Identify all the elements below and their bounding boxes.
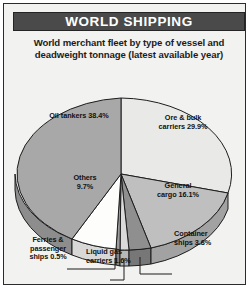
slice-label-oil-tankers: Oil tankers 38.4%	[31, 112, 127, 121]
chart-subtitle: World merchant fleet by type of vessel a…	[18, 37, 240, 60]
slice-label-liquid-gas-carriers: Liquid gas carriers 1.6%	[86, 248, 148, 265]
slice-label-container-ships: Container ships 3.8%	[174, 230, 234, 247]
header-bar: WORLD SHIPPING	[13, 12, 245, 31]
slice-label-ore-bulk-carriers: Ore & bulk carriers 29.9%	[143, 114, 223, 131]
pie-chart: Oil tankers 38.4% Ore & bulk carriers 29…	[10, 62, 246, 287]
slice-label-ferries-passenger-ships: Ferries & passenger ships 0.5%	[23, 236, 73, 262]
page-title: WORLD SHIPPING	[14, 13, 244, 30]
infographic-panel: WORLD SHIPPING World merchant fleet by t…	[3, 3, 246, 285]
slice-label-others: Others 9.7%	[59, 174, 111, 191]
slice-label-general-cargo: General cargo 16.1%	[143, 182, 213, 199]
